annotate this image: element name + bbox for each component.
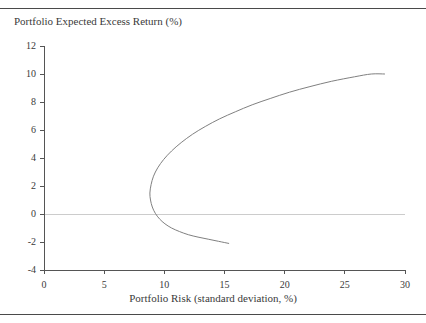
y-tick-label: 12 bbox=[10, 41, 36, 51]
y-tick-label: 8 bbox=[10, 97, 36, 107]
x-tick-label: 5 bbox=[91, 280, 117, 290]
x-tick-label: 30 bbox=[392, 280, 418, 290]
x-tick-label: 15 bbox=[212, 280, 238, 290]
y-tick-label: -4 bbox=[10, 265, 36, 275]
y-tick-label: -2 bbox=[10, 237, 36, 247]
y-tick-label: 2 bbox=[10, 181, 36, 191]
axis-lines bbox=[44, 46, 405, 270]
plot-area: -4-2024681012 051015202530 bbox=[0, 0, 426, 323]
frontier-curve bbox=[150, 74, 385, 244]
y-tick-label: 0 bbox=[10, 209, 36, 219]
figure-container: Portfolio Expected Excess Return (%) -4-… bbox=[0, 0, 426, 323]
x-tick-label: 25 bbox=[332, 280, 358, 290]
x-tick-label: 0 bbox=[31, 280, 57, 290]
x-tick-label: 20 bbox=[272, 280, 298, 290]
x-tick-label: 10 bbox=[151, 280, 177, 290]
chart-svg bbox=[0, 0, 426, 323]
axis-ticks bbox=[40, 46, 405, 274]
y-tick-label: 6 bbox=[10, 125, 36, 135]
y-tick-label: 4 bbox=[10, 153, 36, 163]
x-axis-title: Portfolio Risk (standard deviation, %) bbox=[0, 292, 426, 305]
y-tick-label: 10 bbox=[10, 69, 36, 79]
